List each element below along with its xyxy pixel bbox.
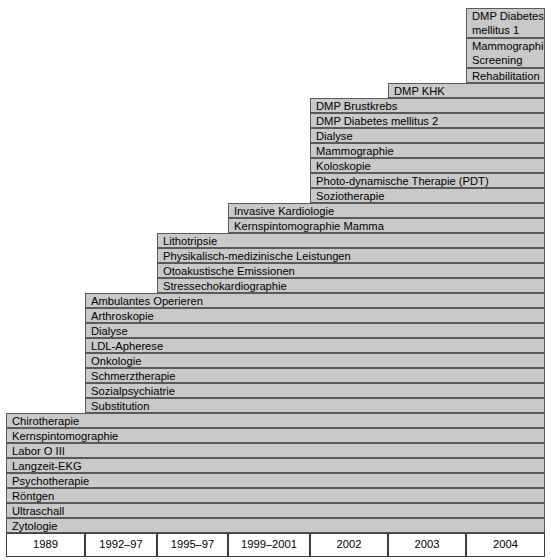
timeline-cell: Arthroskopie <box>85 308 545 323</box>
timeline-cell: Zytologie <box>6 518 545 533</box>
timeline-cell: Kernspintomographie <box>6 428 545 443</box>
timeline-cell: Dialyse <box>85 323 545 338</box>
timeline-cell-label: Soziotherapie <box>316 190 384 202</box>
axis-period-label: 1995–97 <box>171 539 215 550</box>
timeline-cell-label: Kernspintomographie <box>12 430 118 442</box>
timeline-cell: Ultraschall <box>6 503 545 518</box>
timeline-cell-label: Zytologie <box>12 520 57 532</box>
timeline-cell-label: Mammographie <box>316 145 394 157</box>
timeline-cell: Substitution <box>85 398 545 413</box>
timeline-cell-label: Stressechokardiographie <box>163 280 287 292</box>
timeline-cell: Labor O III <box>6 443 545 458</box>
timeline-cell: Mammographie- Screening <box>466 38 545 68</box>
timeline-cell: Invasive Kardiologie <box>228 203 545 218</box>
axis-period-cell: 1989 <box>6 533 85 557</box>
axis-period-label: 2004 <box>493 539 518 550</box>
timeline-cell: Otoakustische Emissionen <box>157 263 545 278</box>
timeline-cell: Koloskopie <box>310 158 545 173</box>
axis-period-cell: 2004 <box>466 533 545 557</box>
timeline-cell: Sozialpsychiatrie <box>85 383 545 398</box>
timeline-cell-label: Chirotherapie <box>12 415 79 427</box>
axis-period-label: 2002 <box>337 539 362 550</box>
timeline-cell-label: Labor O III <box>12 445 65 457</box>
timeline-cell: LDL-Apherese <box>85 338 545 353</box>
timeline-cell: Physikalisch-medizinische Leistungen <box>157 248 545 263</box>
timeline-cell: Lithotripsie <box>157 233 545 248</box>
timeline-cell-label: Substitution <box>91 400 149 412</box>
timeline-cell: Ambulantes Operieren <box>85 293 545 308</box>
timeline-cell: Soziotherapie <box>310 188 545 203</box>
timeline-cell-label: Lithotripsie <box>163 235 217 247</box>
timeline-cell-label: Koloskopie <box>316 160 371 172</box>
timeline-cell: Schmerztherapie <box>85 368 545 383</box>
axis-period-label: 2003 <box>415 539 440 550</box>
stair-step-timeline-chart: DMP Diabetes mellitus 1Mammographie- Scr… <box>0 0 551 560</box>
timeline-cell: Onkologie <box>85 353 545 368</box>
timeline-cell-label: Sozialpsychiatrie <box>91 385 175 397</box>
timeline-cell-label: Rehabilitation <box>472 70 540 82</box>
timeline-cell-label: Röntgen <box>12 490 54 502</box>
timeline-cell-label: DMP KHK <box>394 85 445 97</box>
axis-period-label: 1989 <box>33 539 58 550</box>
axis-period-cell: 1995–97 <box>157 533 228 557</box>
timeline-cell-label: DMP Brustkrebs <box>316 100 397 112</box>
timeline-cell-label: Mammographie- Screening <box>472 40 545 66</box>
timeline-cell-label: Schmerztherapie <box>91 370 176 382</box>
timeline-cell-label: Dialyse <box>316 130 353 142</box>
timeline-cell-label: Arthroskopie <box>91 310 154 322</box>
timeline-cell: DMP KHK <box>388 83 545 98</box>
timeline-cell: Rehabilitation <box>466 68 545 83</box>
timeline-cell: DMP Brustkrebs <box>310 98 545 113</box>
timeline-cell-label: Physikalisch-medizinische Leistungen <box>163 250 351 262</box>
timeline-cell: DMP Diabetes mellitus 2 <box>310 113 545 128</box>
timeline-cell: Psychotherapie <box>6 473 545 488</box>
timeline-cell-label: Photo-dynamische Therapie (PDT) <box>316 175 489 187</box>
timeline-cell: Langzeit-EKG <box>6 458 545 473</box>
timeline-cell: Mammographie <box>310 143 545 158</box>
axis-period-cell: 1992–97 <box>85 533 157 557</box>
timeline-cell-label: Psychotherapie <box>12 475 89 487</box>
timeline-cell-label: Kernspintomographie Mamma <box>234 220 384 232</box>
axis-period-label: 1999–2001 <box>241 539 297 550</box>
timeline-cell: Kernspintomographie Mamma <box>228 218 545 233</box>
timeline-cell-label: Otoakustische Emissionen <box>163 265 295 277</box>
timeline-cell-label: DMP Diabetes mellitus 2 <box>316 115 438 127</box>
timeline-cell-label: LDL-Apherese <box>91 340 163 352</box>
timeline-cell-label: Ambulantes Operieren <box>91 295 203 307</box>
timeline-cell-label: Langzeit-EKG <box>12 460 82 472</box>
timeline-cell: Röntgen <box>6 488 545 503</box>
timeline-cell: Chirotherapie <box>6 413 545 428</box>
timeline-cell: DMP Diabetes mellitus 1 <box>466 8 545 38</box>
timeline-cell: Stressechokardiographie <box>157 278 545 293</box>
timeline-cell-label: Dialyse <box>91 325 128 337</box>
timeline-cell-label: Onkologie <box>91 355 141 367</box>
timeline-cell-label: Ultraschall <box>12 505 64 517</box>
timeline-cell-label: DMP Diabetes mellitus 1 <box>472 10 544 36</box>
timeline-cell: Dialyse <box>310 128 545 143</box>
axis-period-cell: 2002 <box>310 533 388 557</box>
axis-period-label: 1992–97 <box>99 539 143 550</box>
axis-period-cell: 2003 <box>388 533 466 557</box>
axis-period-cell: 1999–2001 <box>228 533 310 557</box>
timeline-cell: Photo-dynamische Therapie (PDT) <box>310 173 545 188</box>
timeline-cell-label: Invasive Kardiologie <box>234 205 334 217</box>
